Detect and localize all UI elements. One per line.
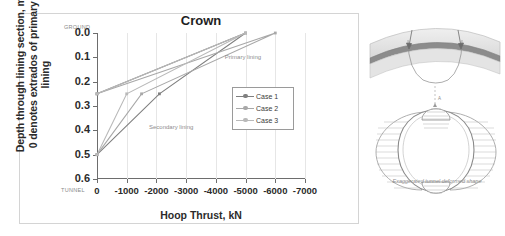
tunnel-diagram-panel: A (368, 0, 505, 236)
tunnel-diagram-svg: A (368, 0, 505, 236)
chart-annotation: Secondary lining (149, 124, 193, 130)
y-tick-label: 0.1 (75, 50, 90, 62)
legend-item[interactable]: Case 3 (236, 114, 290, 126)
series-marker (125, 92, 128, 95)
series-marker (140, 92, 143, 95)
legend-label: Case 1 (254, 93, 278, 100)
crown-leader-line (433, 86, 437, 107)
legend-item[interactable]: Case 1 (236, 90, 290, 102)
y-tick-label: 0.6 (75, 172, 90, 184)
gridline (305, 33, 306, 179)
x-tick (305, 179, 306, 183)
y-tick-label: 0.4 (75, 123, 90, 135)
chart-annotation: Primary lining (225, 54, 261, 60)
legend-label: Case 3 (254, 117, 278, 124)
x-tick (246, 179, 247, 183)
y-axis-title-line3: lining (39, 0, 52, 170)
x-axis-title: Hoop Thrust, kN (97, 209, 305, 221)
series-marker (158, 92, 161, 95)
x-tick-label: -7000 (283, 185, 327, 196)
legend-swatch-icon (236, 115, 254, 125)
series-marker (96, 153, 99, 156)
y-tick-label: 0.3 (75, 99, 90, 111)
x-tick (97, 179, 98, 183)
diagram-caption: Exaggerated tunnel deformed shape (372, 178, 502, 184)
y-axis-title: Depth through lining section, m 0 denote… (14, 0, 52, 170)
chart-legend[interactable]: Case 1Case 2Case 3 (232, 87, 294, 130)
series-marker (244, 32, 247, 35)
legend-swatch-icon (236, 103, 254, 113)
plot-area: Primary liningSecondary lining Case 1Cas… (97, 33, 305, 179)
legend-label: Case 2 (254, 105, 278, 112)
crown-arch-band (370, 28, 500, 78)
y-tick-label: 0.0 (75, 26, 90, 38)
chart-title: Crown (97, 13, 305, 28)
x-tick (216, 179, 217, 183)
y-axis-title-line1: Depth through lining section, m (14, 0, 27, 170)
figure-root: Depth through lining section, m 0 denote… (0, 0, 505, 236)
x-tick (127, 179, 128, 183)
legend-swatch-icon (236, 91, 254, 101)
y-tick-label: 0.5 (75, 148, 90, 160)
x-tick (186, 179, 187, 183)
series-marker (274, 32, 277, 35)
series-marker (96, 92, 99, 95)
chart-panel: Depth through lining section, m 0 denote… (0, 0, 368, 236)
y-axis-title-line2: 0 denotes extrados of primary (27, 0, 40, 170)
x-tick (156, 179, 157, 183)
x-tick (275, 179, 276, 183)
y-tick-label: 0.2 (75, 75, 90, 87)
crown-marker-label: A (438, 96, 441, 101)
legend-item[interactable]: Case 2 (236, 102, 290, 114)
